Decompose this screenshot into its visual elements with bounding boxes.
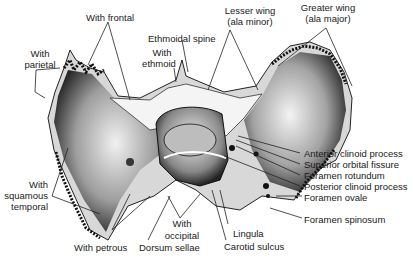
sphenoid-diagram: With frontal With parietal Ethmoidal spi…: [0, 0, 413, 259]
label-with-ethmoid-line1: With: [148, 47, 176, 58]
label-with-parietal-line2: parietal: [24, 59, 56, 70]
label-with-squamous-temporal-line3: temporal: [0, 201, 48, 212]
label-with-squamous-temporal-line2: squamous: [0, 190, 48, 201]
label-lingula: Lingula: [233, 228, 264, 239]
label-with-squamous-temporal-line1: With: [10, 179, 48, 190]
label-foramen-spinosum: Foramen spinosum: [304, 214, 385, 225]
label-with-occipital-line1: With: [168, 218, 196, 229]
label-with-ethmoid-line2: ethmoid: [140, 58, 178, 69]
label-ethmoidal-spine: Ethmoidal spine: [148, 33, 216, 44]
label-with-occipital-line2: occipital: [164, 230, 200, 241]
label-lesser-wing-line1: Lesser wing: [220, 5, 280, 16]
label-foramen-rotundum: Foramen rotundum: [304, 170, 385, 181]
label-anterior-clinoid-process: Anterior clinoid process: [304, 148, 403, 159]
label-greater-wing-line1: Greater wing: [298, 2, 358, 13]
label-posterior-clinoid-process: Posterior clinoid process: [304, 181, 408, 192]
label-dorsum-sellae: Dorsum sellae: [139, 242, 200, 253]
label-lesser-wing-line2: (ala minor): [220, 16, 280, 27]
label-greater-wing-line2: (ala major): [298, 13, 358, 24]
label-with-parietal-line1: With: [28, 48, 52, 59]
label-with-frontal: With frontal: [86, 12, 134, 23]
label-superior-orbital-fissure: Superior orbital fissure: [304, 159, 399, 170]
label-foramen-ovale: Foramen ovale: [304, 192, 367, 203]
label-carotid-sulcus: Carotid sulcus: [224, 241, 284, 252]
label-with-petrous: With petrous: [74, 242, 127, 253]
